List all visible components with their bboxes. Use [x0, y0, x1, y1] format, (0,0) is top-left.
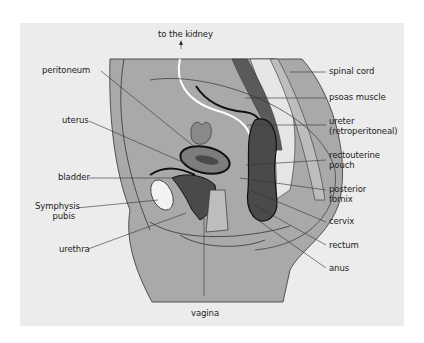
label-rectouterine-pouch: rectouterine pouch	[329, 151, 380, 170]
label-urethra: urethra	[59, 245, 90, 255]
label-uterus: uterus	[62, 116, 89, 126]
label-vagina: vagina	[191, 309, 219, 319]
label-symphysis-pubis: Symphysis pubis	[35, 202, 75, 221]
label-spinal-cord: spinal cord	[329, 67, 374, 77]
label-posterior-fornix: posterior fornix	[329, 185, 366, 204]
label-peritoneum: peritoneum	[42, 66, 90, 76]
body-silhouette	[110, 59, 343, 302]
label-anus: anus	[329, 264, 349, 274]
label-rectum: rectum	[329, 241, 359, 251]
vagina-canal	[206, 190, 228, 232]
label-ureter: ureter (retroperitoneal)	[329, 117, 398, 136]
label-to-the-kidney: to the kidney	[158, 30, 213, 40]
label-cervix: cervix	[329, 217, 354, 227]
rectum	[247, 119, 276, 221]
label-bladder: bladder	[58, 173, 90, 183]
label-psoas-muscle: psoas muscle	[329, 93, 386, 103]
